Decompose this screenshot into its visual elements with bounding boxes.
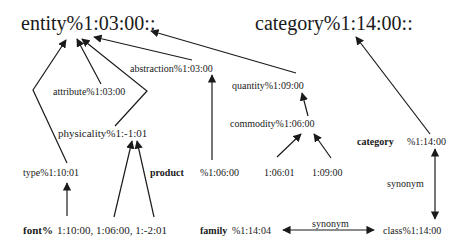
node-category-root: category%1:14:00::: [255, 12, 413, 35]
edge-category-root: [356, 37, 430, 134]
node-family-word: family: [200, 225, 227, 236]
edge-abstraction-entity: [94, 37, 192, 60]
node-physicality: physicality%1:-1:01: [58, 127, 147, 139]
label-synonym-vertical: synonym: [387, 178, 424, 189]
edge-type-entity: [33, 40, 67, 163]
nodes: entity%1:03:00:: category%1:14:00:: abst…: [21, 12, 446, 236]
node-font-word: font%: [23, 224, 53, 236]
edge-font-physicality-a: [114, 141, 132, 217]
node-entity: entity%1:03:00::: [21, 12, 155, 35]
node-product-sense: %1:06:00: [200, 167, 239, 178]
edge-commodity-quantity: [302, 93, 308, 116]
node-commodity-sense-a: 1:06:01: [264, 167, 295, 178]
node-commodity-sense-b: 1:09:00: [312, 167, 343, 178]
node-commodity: commodity%1:06:00: [230, 118, 314, 129]
node-category-word: category: [357, 136, 394, 147]
node-quantity: quantity%1:09:00: [232, 80, 304, 91]
node-family-sense: %1:14:04: [232, 225, 271, 236]
node-product-word: product: [150, 167, 184, 178]
edge-sense-b-commodity: [314, 134, 331, 158]
edge-attribute-entity: [77, 39, 101, 84]
edge-physicality-entity: [82, 39, 147, 126]
node-font-senses: 1:10:00, 1:06:00, 1:-2:01: [57, 224, 167, 236]
edge-sense-a-commodity: [277, 134, 301, 157]
node-category-sense: %1:14:00: [407, 136, 446, 147]
node-attribute: attribute%1:03:00: [53, 86, 125, 97]
node-type: type%1:10:01: [23, 167, 79, 178]
label-synonym-horizontal: synonym: [312, 218, 349, 229]
edge-font-physicality-b: [137, 141, 154, 217]
diagram-svg: entity%1:03:00:: category%1:14:00:: abst…: [0, 0, 473, 251]
node-abstraction: abstraction%1:03:00: [130, 63, 213, 74]
wordnet-sense-diagram: entity%1:03:00:: category%1:14:00:: abst…: [0, 0, 473, 251]
node-class: class%1:14:00: [383, 225, 441, 236]
